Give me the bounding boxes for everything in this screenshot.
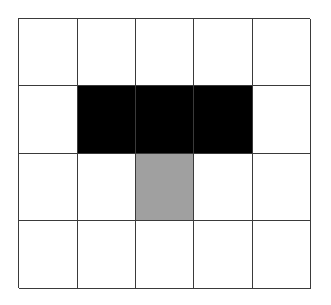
grid-cell-r1-c4-empty [194, 19, 253, 86]
grid-cell-r4-c4-empty [194, 221, 253, 289]
grid-cell-r4-c2-empty [78, 221, 136, 289]
grid-cell-r2-c4-black [194, 86, 253, 154]
grid-cell-r1-c2-empty [78, 19, 136, 86]
grid-cell-r4-c3-empty [136, 221, 194, 289]
grid-cell-r3-c3-gray [136, 154, 194, 221]
grid-cell-r3-c1-empty [19, 154, 78, 221]
grid-cell-r2-c2-black [78, 86, 136, 154]
tile-grid [18, 18, 310, 288]
grid-cell-r2-c5-empty [253, 86, 311, 154]
grid-cell-r2-c1-empty [19, 86, 78, 154]
grid-cell-r4-c1-empty [19, 221, 78, 289]
grid-cell-r1-c3-empty [136, 19, 194, 86]
grid-cell-r1-c1-empty [19, 19, 78, 86]
grid-cell-r3-c2-empty [78, 154, 136, 221]
grid-cell-r1-c5-empty [253, 19, 311, 86]
grid-cell-r3-c5-empty [253, 154, 311, 221]
grid-cell-r3-c4-empty [194, 154, 253, 221]
grid-cell-r4-c5-empty [253, 221, 311, 289]
grid-cell-r2-c3-black [136, 86, 194, 154]
